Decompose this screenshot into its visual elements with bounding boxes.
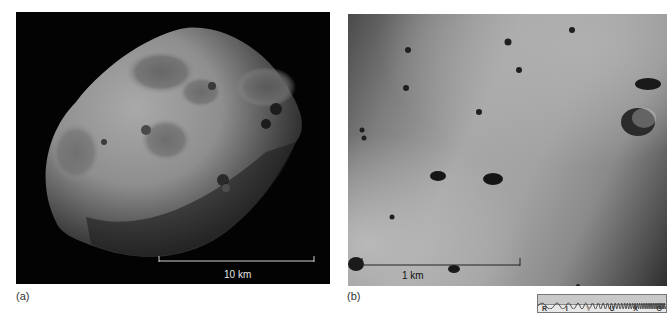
band-radio: R — [542, 304, 547, 313]
panel-a-label: (a) — [16, 290, 29, 302]
image-panel-b: 1 km — [348, 14, 667, 286]
scale-bar-a-label: 10 km — [224, 269, 251, 280]
panel-b-label: (b) — [347, 290, 360, 302]
band-ultraviolet: U — [610, 304, 615, 313]
band-gamma: G — [657, 304, 662, 313]
image-panel-a: 10 km — [16, 12, 330, 284]
surface-illustration — [348, 14, 667, 286]
band-visible: V — [586, 304, 591, 313]
scale-bar-b-label: 1 km — [402, 270, 424, 281]
spectrum-indicator: R I V U X G — [537, 294, 667, 313]
moon-illustration — [16, 12, 330, 284]
band-xray: X — [633, 304, 638, 313]
band-infrared: I — [566, 304, 568, 313]
spectrum-bands: R I V U X G — [538, 304, 666, 313]
